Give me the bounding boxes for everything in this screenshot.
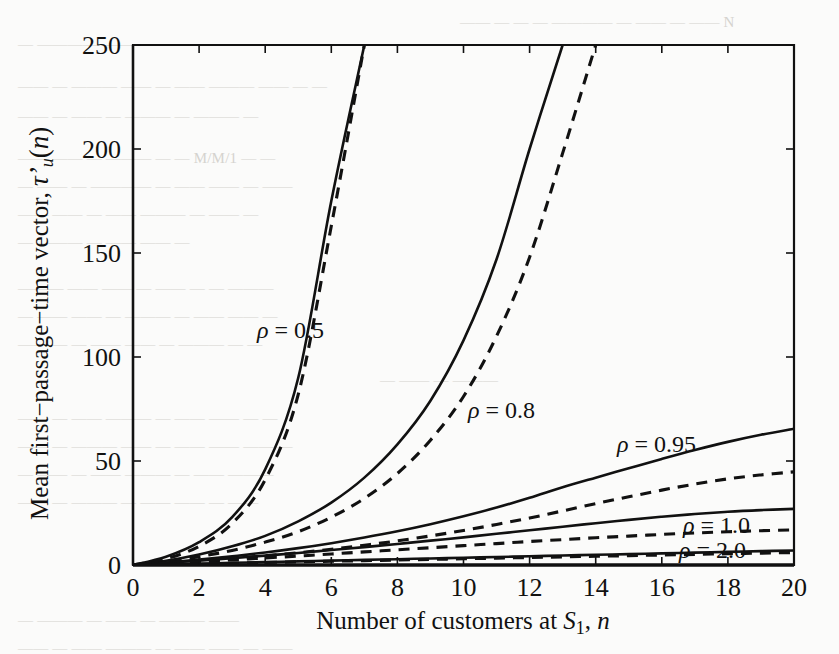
x-tick-label: 2 — [193, 573, 206, 602]
x-tick-label: 8 — [391, 573, 404, 602]
x-tick-label: 6 — [325, 573, 338, 602]
y-tick-label: 250 — [82, 31, 121, 60]
rho-annotation: ρ = 0.8 — [467, 397, 535, 423]
data-curve — [133, 0, 379, 565]
y-tick-label: 200 — [82, 135, 121, 164]
y-tick-label: 0 — [108, 551, 121, 580]
curves-layer — [133, 0, 794, 565]
curve-annotations-layer: ρ = 0.5ρ = 0.8ρ = 0.95ρ = 1.0ρ = 2.0 — [256, 317, 750, 563]
x-tick-label: 10 — [451, 573, 477, 602]
x-tick-label: 4 — [259, 573, 272, 602]
y-axis-title-text: Mean first−passage−time vector, — [26, 186, 53, 520]
x-tick-label: 18 — [715, 573, 741, 602]
y-tick-label: 100 — [82, 343, 121, 372]
rho-annotation: ρ = 1.0 — [682, 512, 750, 538]
data-curve — [133, 0, 611, 565]
data-curve — [133, 0, 379, 565]
axes-layer — [133, 45, 794, 565]
x-tick-label: 14 — [583, 573, 609, 602]
x-axis-title: Number of customers at S1, n — [316, 607, 610, 638]
rho-annotation: ρ = 2.0 — [678, 537, 746, 563]
svg-text:Mean first−passage−time vector: Mean first−passage−time vector, τ’u(n) — [24, 127, 57, 520]
rho-annotation: ρ = 0.5 — [256, 317, 324, 343]
x-axis-title-text: Number of customers at — [316, 607, 563, 634]
y-axis-title: Mean first−passage−time vector, τ’u(n) — [24, 127, 57, 520]
x-tick-label: 16 — [649, 573, 675, 602]
x-tick-label: 0 — [127, 573, 140, 602]
x-tick-label: 12 — [517, 573, 543, 602]
chart-figure: 02468101214161820050100150200250 ρ = 0.5… — [0, 0, 839, 654]
rho-annotation: ρ = 0.95 — [616, 431, 696, 457]
y-tick-label: 150 — [82, 239, 121, 268]
svg-text:Number of customers at S1, n: Number of customers at S1, n — [316, 607, 610, 638]
x-tick-label: 20 — [781, 573, 807, 602]
y-tick-label: 50 — [95, 447, 121, 476]
plot-frame — [133, 45, 794, 565]
